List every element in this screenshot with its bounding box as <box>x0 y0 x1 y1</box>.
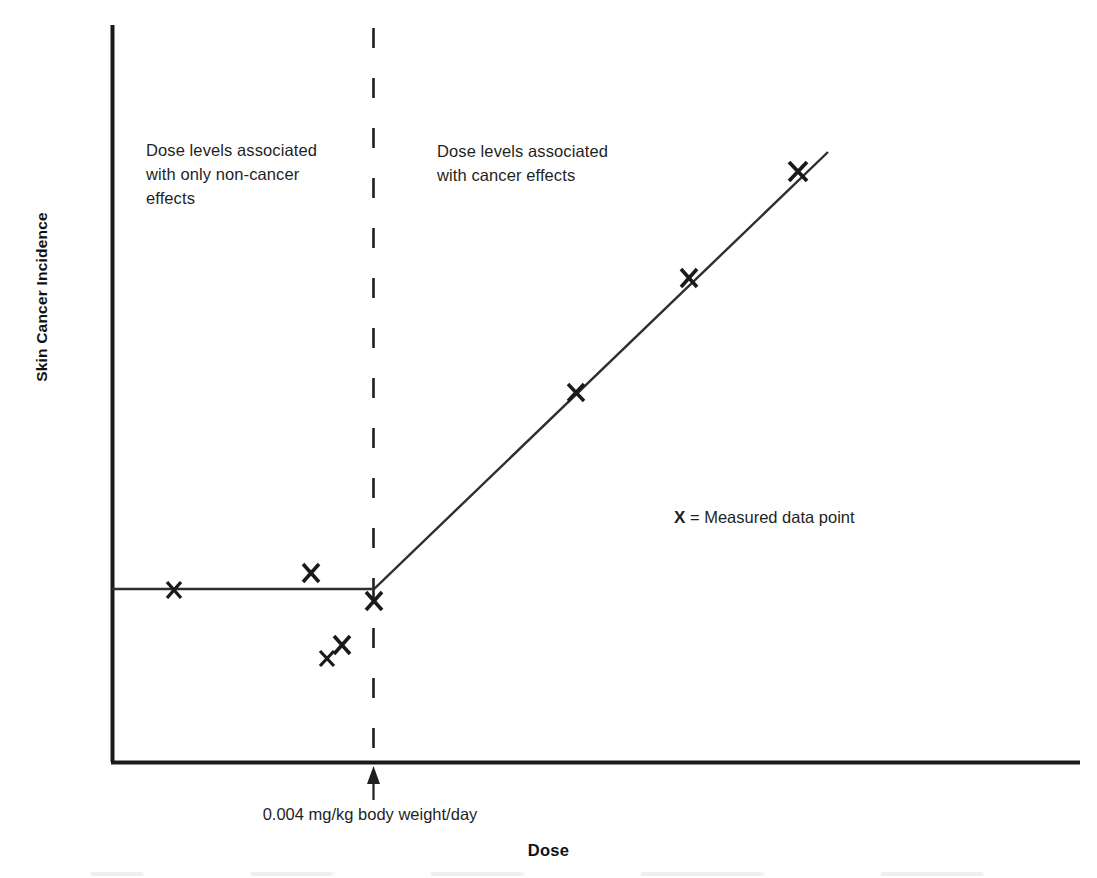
annotation-cancer-region: Dose levels associated with cancer effec… <box>437 140 677 188</box>
threshold-arrow-icon <box>367 766 380 800</box>
y-axis-title: Skin Cancer Incidence <box>33 167 51 427</box>
scan-artifact <box>0 872 1097 876</box>
x-axis-title: Dose <box>0 841 1097 860</box>
data-point-marker <box>303 564 319 582</box>
legend-marker-icon: X <box>674 508 685 527</box>
data-point-marker <box>789 162 807 181</box>
data-point-marker <box>334 636 350 654</box>
data-point-marker <box>568 384 584 401</box>
threshold-value-caption: 0.004 mg/kg body weight/day <box>120 805 620 824</box>
legend-label: = Measured data point <box>685 508 854 526</box>
data-point-marker <box>320 651 334 666</box>
chart-canvas <box>0 0 1097 878</box>
chart-figure: Dose levels associated with only non-can… <box>0 0 1097 878</box>
data-point-markers <box>167 162 807 666</box>
annotation-non-cancer-region: Dose levels associated with only non-can… <box>146 139 376 211</box>
legend: X = Measured data point <box>674 508 855 528</box>
